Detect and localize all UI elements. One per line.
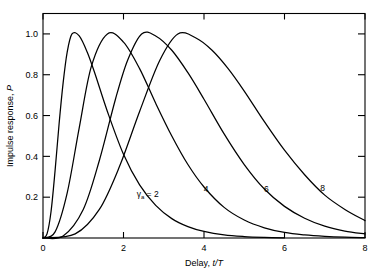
y-tick-label: 1.0 <box>25 29 38 39</box>
impulse-response-chart: 02468 0.20.40.60.81.0 γa = 2468 Delay, t… <box>0 0 380 275</box>
x-axis-label: Delay, t/T <box>185 258 224 268</box>
annotation-gamma-4: 4 <box>204 184 209 194</box>
x-tick-label: 4 <box>201 243 206 253</box>
y-tick-label: 0.2 <box>25 192 38 202</box>
x-tick-label: 2 <box>121 243 126 253</box>
y-tick-label: 0.8 <box>25 70 38 80</box>
chart-background <box>0 0 380 275</box>
y-tick-label: 0.6 <box>25 111 38 121</box>
annotation-gamma-8: 8 <box>320 183 325 193</box>
chart-figure: 02468 0.20.40.60.81.0 γa = 2468 Delay, t… <box>0 0 380 275</box>
annotation-gamma-2: γa = 2 <box>137 189 159 200</box>
x-tick-label: 8 <box>362 243 367 253</box>
y-tick-label: 0.4 <box>25 152 38 162</box>
x-tick-label: 6 <box>282 243 287 253</box>
annotation-gamma-6: 6 <box>264 184 269 194</box>
svg-text:Impulse response, P: Impulse response, P <box>5 85 15 167</box>
x-tick-label: 0 <box>40 243 45 253</box>
y-axis-label: Impulse response, P <box>5 85 15 167</box>
svg-text:Delay, t/T: Delay, t/T <box>185 258 224 268</box>
